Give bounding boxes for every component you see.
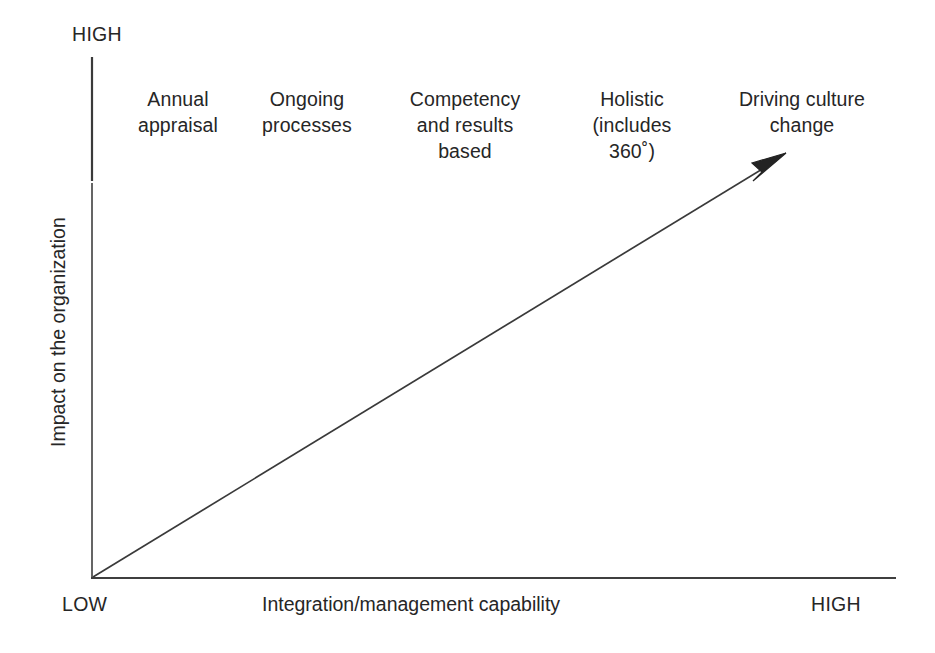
y-axis-high-caption: HIGH [72,22,122,46]
stage-label-ongoing-processes: Ongoing processes [243,86,371,138]
y-axis-title: Impact on the organization [46,217,70,447]
stage-label-driving-culture-change: Driving culture change [716,86,888,138]
stage-label-competency-and-results-based: Competency and results based [391,86,539,164]
trajectory-arrow-shaft [93,160,777,577]
trajectory-arrow-head [752,153,786,181]
figure-canvas: HIGH Impact on the organization Annual a… [0,0,935,653]
x-axis-high-caption: HIGH [811,592,861,616]
stage-label-annual-appraisal: Annual appraisal [118,86,238,138]
stage-label-holistic-360: Holistic (includes 360˚) [566,86,698,164]
x-axis-low-caption: LOW [62,592,107,616]
x-axis-title: Integration/management capability [262,592,560,616]
